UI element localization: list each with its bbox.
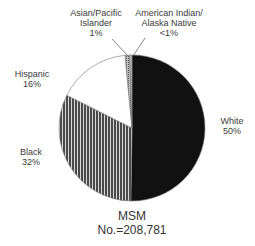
label-american-indian: American Indian/Alaska Native<1% <box>126 8 212 38</box>
label-white: White50% <box>216 116 248 136</box>
label-asian: Asian/PacificIslander1% <box>63 8 129 38</box>
pie-slice-white <box>131 55 205 201</box>
chart-caption: MSM No.=208,781 <box>82 209 182 237</box>
chart-title: MSM <box>82 209 182 223</box>
label-hispanic: Hispanic16% <box>10 69 54 89</box>
asian-leader-line <box>112 39 128 56</box>
amind-leader-line <box>133 38 145 56</box>
label-black: Black32% <box>15 147 47 167</box>
chart-count: No.=208,781 <box>82 223 182 237</box>
